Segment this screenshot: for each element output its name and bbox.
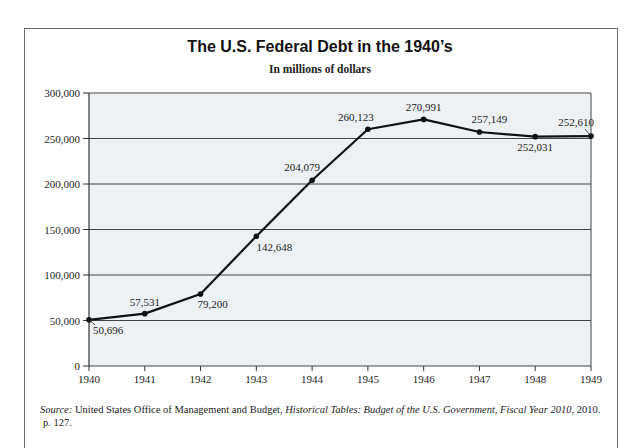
- source-title: Historical Tables: Budget of the U.S. Go…: [285, 404, 574, 415]
- x-tick-label: 1941: [134, 373, 156, 385]
- x-tick-label: 1947: [468, 373, 491, 385]
- source-text: United States Office of Management and B…: [72, 404, 285, 415]
- data-point: [532, 134, 538, 140]
- x-tick-label: 1942: [190, 373, 212, 385]
- data-point: [365, 126, 371, 132]
- x-tick-label: 1943: [245, 373, 268, 385]
- data-label: 252,610: [558, 116, 594, 128]
- data-label: 57,531: [130, 296, 160, 308]
- data-point: [254, 233, 260, 239]
- data-point: [198, 291, 204, 297]
- x-tick-label: 1948: [524, 373, 547, 385]
- y-tick-label: 100,000: [44, 269, 80, 281]
- x-tick-label: 1940: [78, 373, 101, 385]
- data-point: [421, 117, 427, 123]
- y-tick-label: 300,000: [44, 87, 80, 99]
- x-tick-label: 1945: [357, 373, 380, 385]
- data-point: [142, 311, 148, 317]
- data-label: 142,648: [256, 241, 292, 253]
- x-tick-label: 1944: [301, 373, 324, 385]
- data-label: 79,200: [197, 298, 228, 310]
- x-tick-label: 1946: [413, 373, 436, 385]
- y-tick-label: 250,000: [44, 133, 80, 145]
- source-year: 2010.: [574, 404, 600, 415]
- data-label: 204,079: [284, 161, 320, 173]
- y-tick-label: 0: [75, 360, 81, 372]
- source-page: p. 127.: [40, 417, 72, 428]
- source-note: Source: United States Office of Manageme…: [40, 403, 620, 429]
- y-tick-label: 200,000: [44, 178, 80, 190]
- data-label: 270,991: [406, 101, 442, 113]
- x-tick-label: 1949: [580, 373, 603, 385]
- data-point: [477, 129, 483, 135]
- data-point: [309, 177, 315, 183]
- data-label: 50,696: [93, 324, 124, 336]
- y-tick-label: 150,000: [44, 224, 80, 236]
- y-tick-label: 50,000: [50, 315, 81, 327]
- data-label: 260,123: [338, 111, 374, 123]
- data-label: 252,031: [517, 141, 553, 153]
- data-label: 257,149: [472, 113, 508, 125]
- source-label: Source:: [40, 404, 72, 415]
